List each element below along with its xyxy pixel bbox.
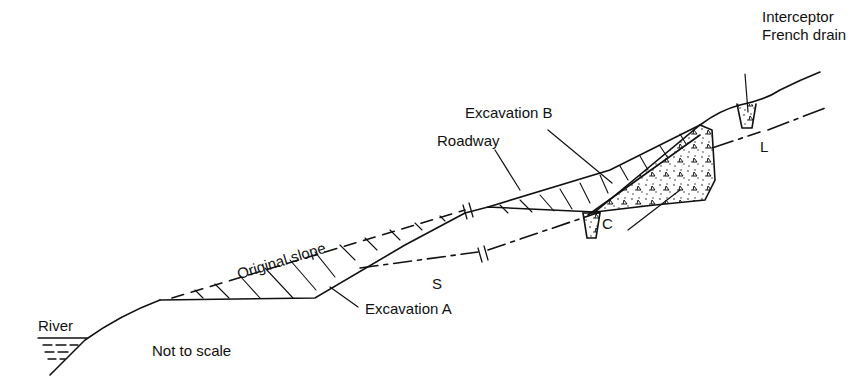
river-label: River — [38, 317, 73, 334]
excavation-a-label: Excavation A — [365, 300, 452, 317]
c-label: C — [602, 215, 613, 232]
french-drain-label: French drain — [762, 26, 846, 43]
line-l — [712, 108, 825, 148]
drain-c — [583, 213, 600, 238]
interceptor-drain — [737, 104, 756, 128]
l-label: L — [760, 138, 768, 155]
slip-surface-s — [360, 212, 600, 268]
roadway-label: Roadway — [437, 132, 500, 149]
water-icon — [38, 338, 87, 359]
slope-diagram — [0, 0, 859, 385]
excavation-b-label: Excavation B — [465, 104, 553, 121]
s-label: S — [432, 275, 442, 292]
not-to-scale-label: Not to scale — [152, 342, 231, 359]
interceptor-label: Interceptor — [762, 8, 834, 25]
